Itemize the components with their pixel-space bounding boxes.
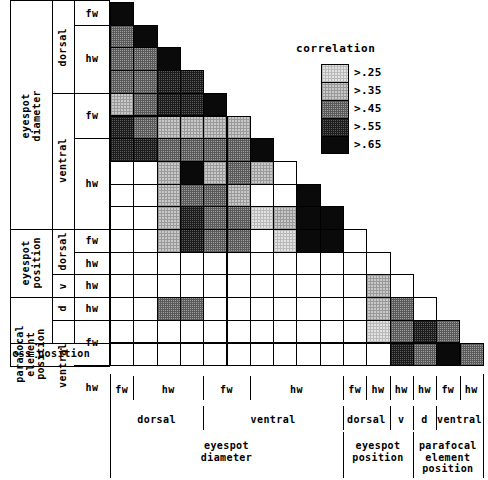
matrix-cell [133,161,157,185]
matrix-cell [157,206,181,230]
divider [390,406,391,430]
matrix-cell [320,206,344,230]
correlation-matrix-figure: fwhwfwhwfwhwhwhwfwhwdorsalventraldorsalv… [0,0,488,480]
divider [250,376,251,400]
matrix-cell [366,320,390,344]
col-group-outer-label: eyespotposition [343,440,413,463]
matrix-cell [296,184,320,208]
matrix-cell [273,343,297,367]
matrix-cell [250,138,274,162]
row-group-mid-label: d [58,305,69,311]
divider [436,376,437,400]
matrix-cell [250,320,274,344]
legend-swatch [321,64,349,82]
row-group-outer-label: eyespotposition [21,237,42,288]
row-group-mid: dorsal [52,229,74,274]
matrix-cell [273,297,297,321]
divider [52,320,74,321]
matrix-cell [110,47,134,71]
divider [203,406,204,430]
matrix-cell [133,138,157,162]
legend-title: correlation [296,42,375,55]
divider [74,252,110,253]
matrix-cell [110,25,134,49]
matrix-cell [296,252,320,276]
matrix-cell [157,274,181,298]
matrix-cell [157,70,181,94]
col-label-leaf: hw [460,384,483,395]
matrix-cell [157,320,181,344]
col-group-outer-label: parafocalelementposition [413,440,483,475]
row-group-mid: v [52,274,74,297]
divider [343,376,344,400]
matrix-cell [366,252,390,276]
matrix-cell [180,252,204,276]
row-label-leaf: hw [74,274,110,297]
matrix-cell [320,252,344,276]
matrix-cell [250,206,274,230]
matrix-cell [110,93,134,117]
divider [74,138,110,139]
matrix-cell [180,70,204,94]
matrix-cell [110,229,134,253]
divider [366,376,367,400]
matrix-cell [157,229,181,253]
matrix-cell [157,138,181,162]
divider [10,0,11,366]
matrix-cell [133,206,157,230]
matrix-cell [110,297,134,321]
legend-keys: >.25>.35>.45>.55>.65 [354,64,382,154]
row-group-outer: eyespotdiameter [10,2,52,229]
matrix-cell [133,184,157,208]
row-label-leaf: hw [74,297,110,320]
col-label-leaf: fw [110,384,133,395]
matrix-cell [296,343,320,367]
row-label-css-position: css position [10,343,111,366]
matrix-cell [110,206,134,230]
matrix-cell [250,274,274,298]
col-label-leaf: hw [390,384,413,395]
row-label-leaf: fw [74,2,110,25]
col-label-leaf: fw [343,384,366,395]
matrix-cell [343,252,367,276]
matrix-cell [227,320,251,344]
matrix-cell [180,206,204,230]
row-label-leaf: hw [74,365,110,410]
divider [52,93,74,94]
matrix-cell [110,116,134,140]
divider [10,366,110,367]
matrix-cell [180,297,204,321]
matrix-cell [157,184,181,208]
matrix-cell [320,320,344,344]
matrix-cell [157,47,181,71]
matrix-cell [227,252,251,276]
matrix-cell [250,161,274,185]
matrix-cell [157,297,181,321]
divider [436,406,437,430]
matrix-cell [180,138,204,162]
row-group-mid-label: v [58,283,69,289]
matrix-cell [320,297,344,321]
legend-swatch [321,82,349,100]
matrix-cell [227,274,251,298]
legend-swatch [321,100,349,118]
row-label-leaf: fw [74,93,110,138]
matrix-cell [133,47,157,71]
matrix-cell [296,206,320,230]
legend-swatch [321,118,349,136]
matrix-cell [180,116,204,140]
divider [413,432,414,478]
matrix-cell [110,138,134,162]
matrix-cell [110,320,134,344]
matrix-cell [413,343,437,367]
matrix-cell [203,184,227,208]
matrix-cell [203,161,227,185]
matrix-cell [110,274,134,298]
divider [133,376,134,400]
matrix-cell [203,116,227,140]
matrix-cell [227,343,251,367]
matrix-cell [203,229,227,253]
divider [52,0,53,343]
legend-swatch [321,136,349,154]
matrix-cell [133,25,157,49]
